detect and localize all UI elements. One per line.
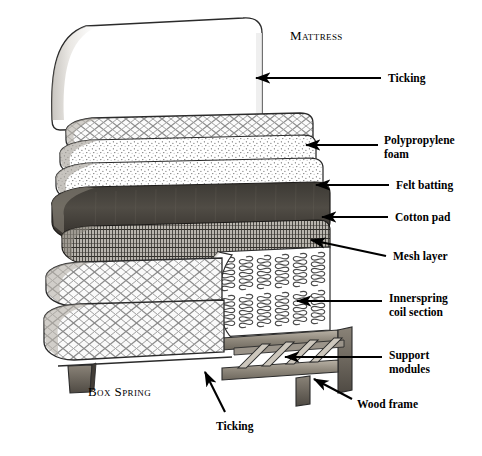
callout-label-ticking-bottom: Ticking: [216, 420, 254, 434]
diagram-illustration: [0, 0, 482, 456]
callout-label-mesh-layer: Mesh layer: [393, 250, 448, 264]
callout-label-innerspring-coil-section: Innerspring coil section: [389, 292, 448, 319]
section-label-box-spring: Box Spring: [88, 384, 151, 399]
callout-label-polypropylene-foam: Polypropylene foam: [384, 134, 455, 161]
callout-label-support-modules: Support modules: [389, 349, 430, 376]
callout-label-ticking-top: Ticking: [388, 72, 426, 86]
callout-label-wood-frame: Wood frame: [357, 398, 418, 412]
mattress-diagram: Mattress Box Spring Ticking Polypropylen…: [0, 0, 482, 456]
layer-ticking-cover: [52, 18, 262, 130]
callout-label-felt-batting: Felt batting: [396, 179, 453, 193]
callout-label-cotton-pad: Cotton pad: [395, 211, 450, 225]
layer-box-spring-top: [46, 258, 222, 306]
section-label-mattress: Mattress: [290, 28, 343, 43]
